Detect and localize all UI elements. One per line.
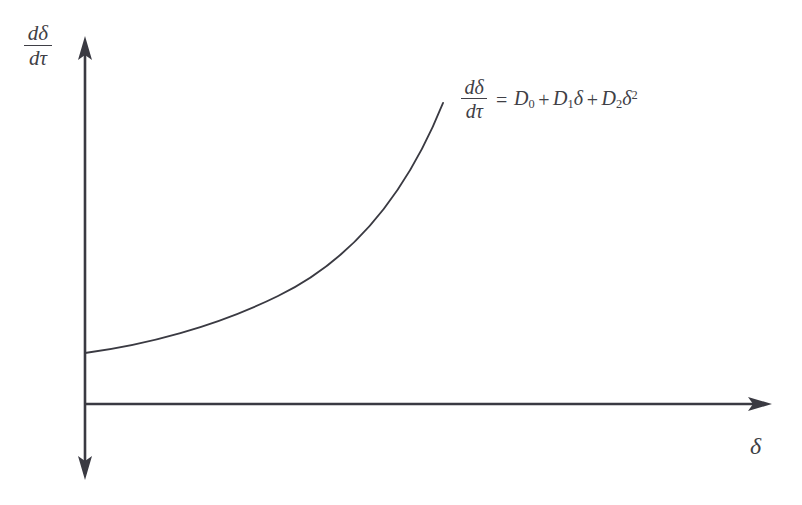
equation-equals-sign: = [487, 90, 513, 110]
equation-term-3-coefficient: D [602, 87, 616, 109]
equation-lhs-fraction: dδ dτ [461, 77, 487, 121]
y-axis-label: dδ dτ [24, 24, 52, 70]
equation-term-3-exponent: 2 [631, 88, 637, 102]
equation-plus-sign-2: + [583, 90, 601, 110]
x-axis-label: δ [750, 434, 761, 458]
y-axis-label-fraction: dδ dτ [24, 23, 52, 69]
equation-lhs-numerator: dδ [461, 77, 487, 99]
equation-term-constant: D0 [514, 88, 535, 111]
curve-equation-annotation: dδ dτ = D0 + D1δ + D2δ2 [461, 78, 638, 122]
equation-plus-sign-1: + [535, 90, 553, 110]
equation-term-quadratic: D2δ2 [602, 88, 638, 111]
equation-term-linear: D1δ [553, 88, 583, 111]
y-axis-label-numerator: dδ [24, 23, 52, 46]
y-axis-label-denominator: dτ [24, 46, 52, 69]
equation-term-2-coefficient: D [553, 87, 567, 109]
plot-drawing [0, 0, 802, 505]
equation-term-2-variable: δ [574, 87, 583, 109]
figure-canvas: dδ dτ δ dδ dτ = D0 + D1δ + D2δ2 [0, 0, 802, 505]
quadratic-curve [85, 103, 443, 353]
equation-lhs-denominator: dτ [461, 99, 487, 121]
equation-term-1-coefficient: D [514, 87, 528, 109]
